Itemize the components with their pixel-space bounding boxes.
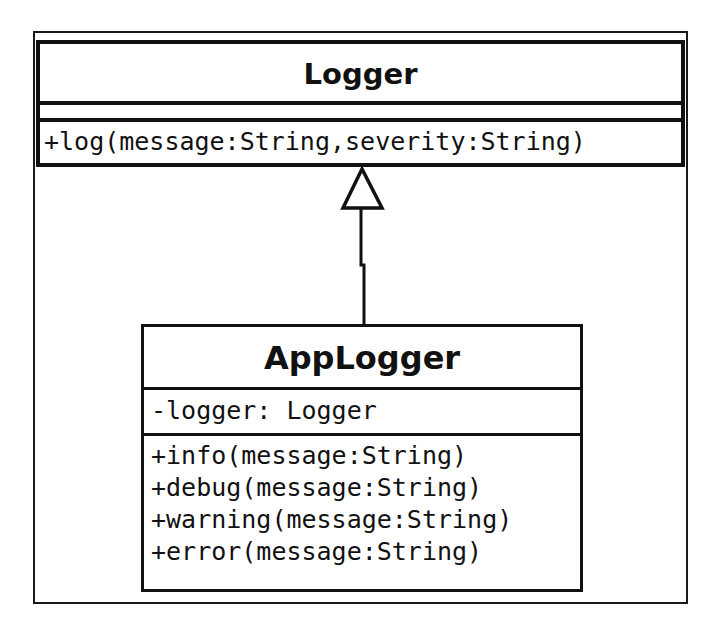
operation-info: +info(message:String)	[151, 440, 580, 472]
class-name-logger: Logger	[40, 44, 681, 105]
class-name-applogger: AppLogger	[144, 327, 580, 390]
operations-section-applogger: +info(message:String) +debug(message:Str…	[144, 436, 580, 568]
operation-warning: +warning(message:String)	[151, 504, 580, 536]
operation-error: +error(message:String)	[151, 536, 580, 568]
attribute-logger: -logger: Logger	[151, 395, 580, 427]
operation-debug: +debug(message:String)	[151, 472, 580, 504]
operation-log: +log(message:String,severity:String)	[44, 126, 681, 158]
class-applogger[interactable]: AppLogger -logger: Logger +info(message:…	[141, 324, 583, 592]
attributes-section-logger	[40, 105, 681, 122]
attributes-section-applogger: -logger: Logger	[144, 390, 580, 436]
class-logger[interactable]: Logger +log(message:String,severity:Stri…	[36, 40, 685, 167]
operations-section-logger: +log(message:String,severity:String)	[40, 122, 681, 158]
